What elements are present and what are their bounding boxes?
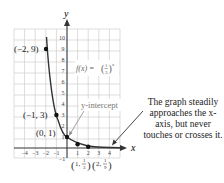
point-label-neg2: (−2, 9) bbox=[14, 44, 39, 54]
point-label-2-num: 1 bbox=[104, 158, 107, 163]
svg-text:1: 1 bbox=[76, 150, 79, 156]
svg-text:−2: −2 bbox=[43, 150, 49, 156]
x-axis-label: x bbox=[130, 142, 136, 153]
svg-text:1,: 1, bbox=[75, 160, 81, 168]
tick-labels: −4−3 −2−1 12 34 −1 12 34 56 78 910 bbox=[21, 35, 110, 162]
point-label-1-num: 1 bbox=[83, 158, 86, 163]
point-label-0: (0, 1) bbox=[36, 128, 56, 138]
y-axis-label: y bbox=[63, 8, 69, 19]
svg-text:6: 6 bbox=[62, 79, 65, 85]
svg-text:5: 5 bbox=[62, 90, 65, 96]
point-label-1-den: 3 bbox=[83, 165, 86, 170]
svg-text:7: 7 bbox=[62, 68, 65, 74]
svg-text:9: 9 bbox=[62, 46, 65, 52]
exponential-graph: y x −4−3 −2−1 12 34 −1 12 34 56 78 910 (… bbox=[0, 0, 224, 183]
svg-text:4: 4 bbox=[62, 101, 65, 107]
function-label: f(x) = ( 1 3 ) x bbox=[75, 60, 119, 76]
svg-text:−1: −1 bbox=[59, 156, 65, 162]
svg-text:−4: −4 bbox=[21, 150, 27, 156]
svg-text:3: 3 bbox=[97, 150, 100, 156]
svg-text:): ) bbox=[108, 159, 112, 172]
svg-text:): ) bbox=[87, 159, 91, 172]
x-axis-arrow-icon bbox=[120, 145, 127, 151]
svg-text:2: 2 bbox=[87, 150, 90, 156]
y-intercept-annotation: y-intercept bbox=[69, 99, 122, 136]
svg-text:10: 10 bbox=[59, 35, 65, 41]
svg-text:f(x) =: f(x) = bbox=[76, 64, 95, 73]
svg-text:−3: −3 bbox=[32, 150, 38, 156]
y-axis-arrow-icon bbox=[64, 19, 70, 26]
point-label-2-den: 9 bbox=[104, 165, 107, 170]
svg-text:4: 4 bbox=[108, 150, 111, 156]
point-label-neg1: (−1, 3) bbox=[23, 110, 48, 120]
function-curve bbox=[47, 37, 121, 148]
svg-text:2,: 2, bbox=[96, 160, 102, 168]
svg-text:2: 2 bbox=[62, 123, 65, 129]
arrow-icon bbox=[69, 131, 73, 136]
asymptote-note: The graph steadily approaches the x-axis… bbox=[142, 97, 224, 141]
svg-text:8: 8 bbox=[62, 57, 65, 63]
svg-text:3: 3 bbox=[62, 112, 65, 118]
asymptote-arrow bbox=[114, 111, 143, 143]
svg-text:y-intercept: y-intercept bbox=[81, 100, 118, 110]
